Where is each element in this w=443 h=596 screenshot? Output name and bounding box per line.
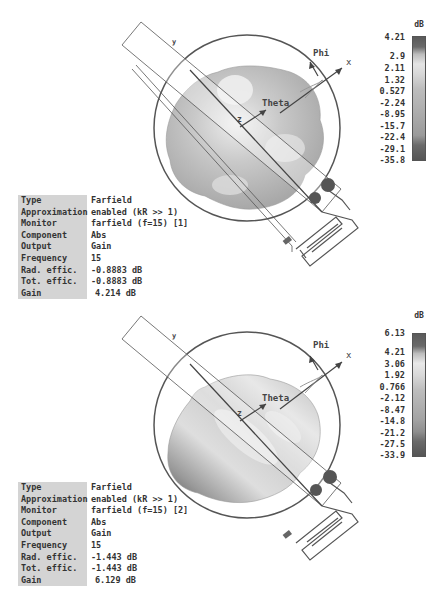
theta-axis-label: Theta [262,98,289,108]
farfield-panel-2: Phi Theta x z y dB 6.13 4.21 3.06 1.92 0… [0,297,443,596]
colorbar-label: -21.2 [379,428,405,438]
colorbar-label: 3.06 [385,359,405,369]
colorbar-label: -15.7 [379,121,405,131]
farfield-panel-1: Phi Theta x z y dB 4.21 2.9 2.11 1.32 0.… [0,0,443,300]
colorbar-labels: 6.13 4.21 3.06 1.92 0.766 -2.12 -8.47 -1… [357,328,405,458]
info-row-output: OutputGain [18,241,188,253]
info-row-tot-effic: Tot. effic.-0.8883 dB [18,276,188,288]
info-row-frequency: Frequency15 [18,253,188,265]
phi-axis-label: Phi [313,340,329,350]
colorbar-label: -8.47 [379,405,405,415]
colorbar-label: -8.95 [379,109,405,119]
colorbar-label: -29.1 [379,144,405,154]
colorbar-unit: dB [409,20,429,29]
x-axis-label: x [346,350,351,360]
z-axis-label: z [237,409,242,418]
colorbar-gradient [412,333,426,457]
port-2-marker [321,178,335,192]
colorbar-label: -27.5 [379,439,405,449]
theta-axis-label: Theta [262,393,289,403]
colorbar-label: -33.9 [379,450,405,460]
info-row-rad-effic: Rad. effic.-0.8883 dB [18,265,188,277]
port-1-marker [310,484,322,496]
info-row-gain: Gain6.129 dB [18,575,188,587]
info-row-type: TypeFarfield [18,482,188,494]
farfield-info-table: TypeFarfield Approximationenabled (kR >>… [18,482,188,586]
farfield-info-table: TypeFarfield Approximationenabled (kR >>… [18,195,188,299]
y-axis-label: y [172,332,176,340]
colorbar-label: 1.92 [385,370,405,380]
colorbar-label: 6.13 [385,328,405,338]
colorbar-label: -22.4 [379,132,405,142]
colorbar-label: -14.8 [379,416,405,426]
y-axis-label: y [172,38,176,46]
info-row-monitor: Monitorfarfield (f=15) [1] [18,218,188,230]
colorbar-label: 0.527 [379,86,405,96]
info-row-approximation: Approximationenabled (kR >> 1) [18,494,188,506]
info-row-tot-effic: Tot. effic.-1.443 dB [18,563,188,575]
colorbar-label: 1.32 [385,75,405,85]
colorbar-labels: 4.21 2.9 2.11 1.32 0.527 -2.24 -8.95 -15… [357,32,405,162]
colorbar-gradient [412,36,426,161]
z-axis-label: z [237,115,242,124]
colorbar-unit: dB [409,311,429,320]
colorbar-label: 4.21 [385,32,405,42]
colorbar-label: 2.11 [385,63,405,73]
info-row-rad-effic: Rad. effic.-1.443 dB [18,552,188,564]
colorbar-label: 2.9 [390,51,405,61]
colorbar-label: -2.24 [379,98,405,108]
colorbar-label: -35.8 [379,155,405,165]
port-1-marker [309,192,321,204]
colorbar-label: -2.12 [379,393,405,403]
info-row-component: ComponentAbs [18,517,188,529]
info-row-approximation: Approximationenabled (kR >> 1) [18,207,188,219]
info-row-monitor: Monitorfarfield (f=15) [2] [18,505,188,517]
info-row-type: TypeFarfield [18,195,188,207]
phi-axis-label: Phi [313,48,329,58]
colorbar-label: 4.21 [385,347,405,357]
info-row-frequency: Frequency15 [18,540,188,552]
x-axis-label: x [346,57,351,67]
info-row-component: ComponentAbs [18,230,188,242]
colorbar-label: 0.766 [379,382,405,392]
info-row-output: OutputGain [18,528,188,540]
port-2-marker [323,470,337,484]
